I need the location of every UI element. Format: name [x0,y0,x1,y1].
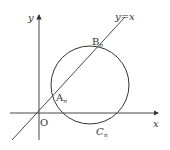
point-b-sub: n [99,41,103,48]
origin-label: O [40,117,48,128]
y-axis-label: y [27,12,34,23]
diagram-canvas: y x O y=x Bn An Cn [0,0,170,150]
point-b-name: B [92,36,99,47]
x-axis-label: x [153,118,159,129]
line-label-x: x [129,11,135,22]
circle-label: Cn [96,126,108,138]
point-a-label: An [55,92,67,104]
line-y-equals-x [12,17,125,140]
diagram: y x O y=x Bn An Cn [0,0,170,150]
line-label: y=x [114,11,135,22]
line-label-eq: = [121,11,129,22]
circle-label-sub: n [104,131,108,138]
point-b-label: Bn [92,36,103,48]
point-a-sub: n [63,97,67,104]
